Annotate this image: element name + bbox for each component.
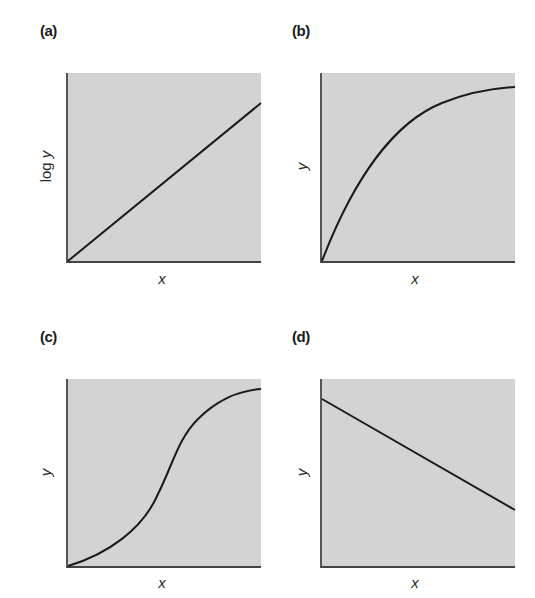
panel-b-plot xyxy=(320,73,515,263)
panel-d-curve xyxy=(322,379,515,566)
y-var: y xyxy=(293,469,310,477)
panel-d-label: (d) xyxy=(292,328,310,345)
panel-a-curve xyxy=(68,73,261,261)
panel-b-curve xyxy=(322,73,515,261)
panel-a-y-axis-label: log y xyxy=(37,137,54,197)
y-var: y xyxy=(293,163,310,171)
y-prefix: log xyxy=(37,158,54,182)
panel-b-label: (b) xyxy=(292,22,310,39)
y-var: y xyxy=(37,151,54,159)
panel-c-curve xyxy=(68,379,261,566)
panel-c-plot xyxy=(66,379,261,568)
panel-c-y-axis-label: y xyxy=(37,443,54,503)
panel-d-plot xyxy=(320,379,515,568)
panel-d-y-axis-label: y xyxy=(293,443,310,503)
panel-d-x-axis-label: x xyxy=(405,574,425,591)
panel-a-label: (a) xyxy=(40,22,57,39)
y-var: y xyxy=(37,469,54,477)
panel-c-x-axis-label: x xyxy=(152,574,172,591)
panel-b-x-axis-label: x xyxy=(405,270,425,287)
panel-b-y-axis-label: y xyxy=(293,137,310,197)
panel-a-x-axis-label: x xyxy=(152,270,172,287)
panel-c-label: (c) xyxy=(40,328,57,345)
panel-a-plot xyxy=(66,73,261,263)
